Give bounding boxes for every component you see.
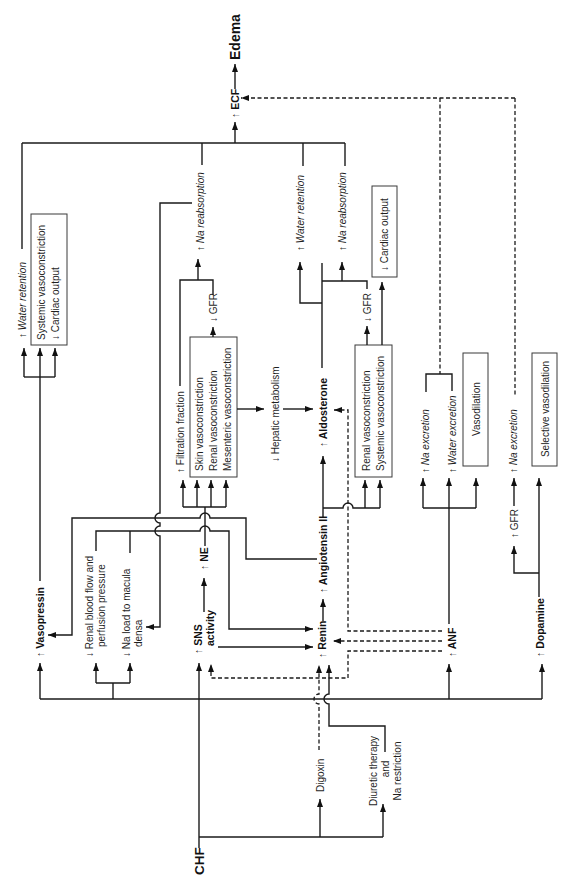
label-dopamine-gfr: ↑ GFR bbox=[509, 509, 520, 538]
label-vasopressin-systemic-vasoconstriction: Systemic vasoconstriction bbox=[36, 225, 47, 340]
label-ne: ↑ NE bbox=[198, 547, 210, 570]
label-na-restriction: Na restriction bbox=[392, 742, 403, 801]
label-skin-vasoconstriction: Skin vasoconstriction bbox=[194, 377, 205, 471]
label-sns-activity: activity bbox=[204, 610, 216, 646]
label-filtration-fraction: ↑ Filtration fraction bbox=[175, 391, 186, 473]
label-perfusion-pressure: perfusion pressure bbox=[96, 564, 107, 647]
label-ne-renal-vasoconstriction: Renal vasoconstriction bbox=[208, 370, 219, 471]
label-aldosterone: ↑ Aldosterone bbox=[317, 378, 329, 447]
label-na-load: ↓ Na load to macula bbox=[121, 568, 132, 657]
label-ne-na-reabsorption: ↑ Na reabsorption bbox=[195, 172, 206, 251]
label-selective-vasodilation: Selective vasodilation bbox=[540, 361, 551, 457]
label-mesenteric-vasoconstriction: Mesenteric vasoconstriction bbox=[222, 348, 233, 471]
label-vasopressin-cardiac-output: ↓ Cardiac output bbox=[50, 267, 61, 340]
label-renal-blood-flow: ↓ Renal blood flow and bbox=[84, 556, 95, 657]
label-macula-densa: densa bbox=[133, 619, 144, 647]
label-chf: CHF bbox=[192, 847, 207, 875]
label-anf: ↑ ANF bbox=[446, 627, 458, 657]
label-ne-gfr: ↓ GFR bbox=[208, 293, 219, 322]
label-anf-water-excretion: ↑ Water excretion bbox=[447, 395, 458, 473]
label-dopamine-na-excretion: ↑ Na excretion bbox=[508, 409, 519, 473]
label-angiotensin-systemic-vasoconstriction: Systemic vasoconstriction bbox=[375, 356, 386, 471]
label-anf-na-excretion: ↑ Na excretion bbox=[420, 409, 431, 473]
label-diuretic-and: and bbox=[380, 761, 391, 778]
label-aldosterone-na-reabsorption: ↑ Na reabsorption bbox=[337, 172, 348, 251]
label-digoxin: Digoxin bbox=[315, 759, 326, 792]
label-edema: Edema bbox=[227, 14, 243, 60]
label-angiotensin-ii: ↑ Angiotensin II bbox=[317, 516, 329, 593]
label-sns: ↑ SNS bbox=[192, 624, 204, 654]
label-renin: ↑ Renin bbox=[316, 621, 328, 658]
label-vasopressin-water-retention: ↑ Water retention bbox=[17, 262, 28, 338]
label-dopamine: ↑ Dopamine bbox=[534, 598, 546, 657]
label-angiotensin-renal-vasoconstriction: Renal vasoconstriction bbox=[361, 370, 372, 471]
label-diuretic-therapy: Diuretic therapy bbox=[368, 736, 379, 806]
label-vasodilation: Vasodilation bbox=[471, 382, 482, 436]
label-aldosterone-water-retention: ↑ Water retention bbox=[295, 175, 306, 251]
label-angiotensin-gfr: ↓ GFR bbox=[362, 293, 373, 322]
chf-pathophysiology-diagram: Edema ↑ ECF ↑ Water retention Systemic v… bbox=[0, 0, 569, 891]
label-vasopressin: ↑ Vasopressin bbox=[34, 587, 46, 657]
label-ecf: ↑ ECF bbox=[229, 88, 241, 118]
label-hepatic-metabolism: ↓ Hepatic metabolism bbox=[270, 366, 281, 462]
label-angiotensin-cardiac-output: ↓ Cardiac output bbox=[379, 198, 390, 271]
